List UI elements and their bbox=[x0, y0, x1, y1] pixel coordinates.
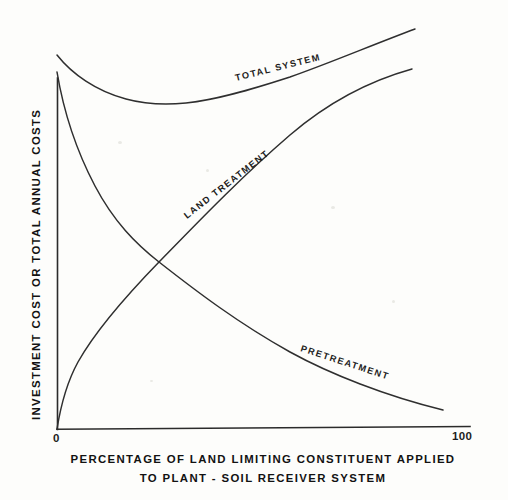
x-tick-label-100: 100 bbox=[452, 430, 472, 442]
curve-land-treatment bbox=[57, 69, 412, 429]
x-axis-title-line1: PERCENTAGE OF LAND LIMITING CONSTITUENT … bbox=[71, 453, 456, 465]
series-label-pretreatment: PRETREATMENT bbox=[299, 343, 390, 381]
curve-pretreatment bbox=[57, 72, 443, 410]
x-axis-title-line2: TO PLANT - SOIL RECEIVER SYSTEM bbox=[140, 472, 387, 484]
x-axis bbox=[57, 427, 470, 430]
curve-total-system bbox=[57, 29, 415, 104]
series-label-land-treatment: LAND TREATMENT bbox=[182, 148, 271, 221]
x-tick-label-0: 0 bbox=[53, 432, 60, 444]
series-label-total-system: TOTAL SYSTEM bbox=[234, 52, 322, 83]
chart-svg: 0 100 TOTAL SYSTEM LAND TREATMENT PRETRE… bbox=[0, 0, 508, 500]
y-axis-title: INVESTMENT COST OR TOTAL ANNUAL COSTS bbox=[30, 109, 42, 420]
figure-container: 0 100 TOTAL SYSTEM LAND TREATMENT PRETRE… bbox=[0, 0, 508, 500]
